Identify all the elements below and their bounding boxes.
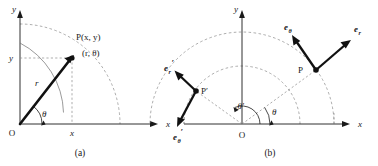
panel-a-y-axis-arrowhead — [17, 10, 23, 18]
panel-b-y-axis-label: y — [233, 4, 238, 14]
panel-a-x-axis-arrowhead — [150, 121, 158, 127]
panel-a-point-label-cartesian: P(x, y) — [76, 32, 101, 42]
panel-a-y-tick-label: y — [8, 53, 13, 63]
panel-b-vector-e-theta-primed — [180, 91, 196, 121]
panel-b-point-p-primed-label: P′ — [201, 86, 208, 96]
panel-b-theta-label: θ — [272, 107, 277, 117]
panel-a: y x O y x r θ P(x, y) (r, θ) (a) — [8, 4, 170, 159]
panel-b: y x O P P′ θ θ′ e θ e r e r ′ — [150, 4, 362, 159]
panel-b-theta-arc — [265, 108, 270, 125]
figure-root: y x O y x r θ P(x, y) (r, θ) (a) — [0, 0, 378, 166]
panel-b-label-e-theta-primed-prime: ′ — [181, 127, 184, 137]
panel-b-label-e-theta-primed: e θ ′ — [173, 127, 184, 144]
panel-b-label-e-theta-primed-base: e — [173, 132, 177, 142]
panel-b-label-e-theta-sub: θ — [289, 27, 293, 34]
panel-b-origin-label: O — [239, 130, 246, 140]
panel-b-label-e-theta-base: e — [284, 22, 288, 32]
panel-a-outer-arc — [20, 24, 120, 124]
panel-b-caption: (b) — [264, 148, 275, 159]
panel-b-vector-e-r-primed — [179, 75, 196, 91]
panel-b-label-e-r: e r — [354, 24, 362, 36]
panel-a-x-axis-label: x — [165, 119, 170, 129]
panel-b-label-e-theta-primed-sub: θ — [178, 137, 182, 144]
panel-b-label-e-r-primed-base: e — [164, 63, 168, 73]
panel-a-x-tick-label: x — [69, 128, 74, 138]
panel-b-label-e-r-primed: e r ′ — [164, 58, 175, 75]
panel-b-label-e-r-primed-prime: ′ — [172, 58, 175, 68]
panel-b-vector-e-r — [316, 45, 345, 70]
polar-coordinates-figure: y x O y x r θ P(x, y) (r, θ) (a) — [0, 0, 378, 166]
panel-b-vector-e-theta-primed-arrowhead — [177, 117, 185, 127]
panel-a-radius-label: r — [35, 78, 39, 88]
panel-b-label-e-theta: e θ — [284, 22, 293, 34]
panel-a-theta-label: θ — [42, 109, 47, 119]
panel-b-x-axis-label: x — [357, 119, 362, 129]
panel-b-x-axis-arrowhead — [342, 121, 350, 127]
panel-b-point-p-label: P — [298, 65, 303, 75]
panel-b-label-e-r-base: e — [354, 24, 358, 34]
panel-a-origin-label: O — [9, 128, 16, 138]
panel-a-point-label-polar: (r, θ) — [82, 48, 99, 58]
panel-b-y-axis-arrowhead — [239, 10, 245, 18]
panel-b-theta-primed-label: θ′ — [238, 101, 245, 111]
panel-a-point-p-marker — [69, 55, 74, 60]
panel-b-label-e-r-primed-sub: r — [169, 68, 172, 75]
panel-b-label-e-r-sub: r — [359, 29, 362, 36]
panel-a-y-axis-label: y — [11, 4, 16, 14]
panel-a-caption: (a) — [75, 148, 86, 159]
panel-a-theta-arc — [33, 106, 42, 124]
panel-b-radius-guide-p — [242, 70, 316, 124]
